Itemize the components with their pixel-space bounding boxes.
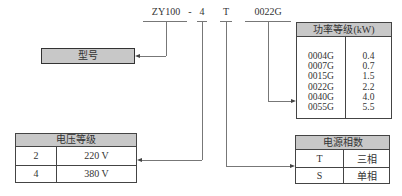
power-code: 0015G xyxy=(297,71,345,81)
power-values-column: 0.4 0.7 1.5 2.2 4.0 5.5 xyxy=(346,37,391,118)
phase-code: S xyxy=(296,167,344,183)
power-code: 0022G xyxy=(297,82,345,92)
connector-series-h xyxy=(140,56,166,57)
code-power: 0022G xyxy=(247,6,289,17)
voltage-table-header: 电压等级 xyxy=(16,134,136,147)
power-value: 0.7 xyxy=(346,61,391,71)
voltage-table: 电压等级 2 220 V 4 380 V xyxy=(15,133,137,183)
power-table: 功率等级(kW) 0004G 0007G 0015G 0022G 0040G 0… xyxy=(296,22,392,119)
code-series-underline xyxy=(143,21,187,22)
arrow-left-icon xyxy=(135,54,140,58)
connector-voltage-v xyxy=(202,21,203,160)
phase-value: 三相 xyxy=(344,150,390,167)
power-value: 2.2 xyxy=(346,82,391,92)
phase-table-body: T 三相 S 单相 xyxy=(296,150,389,183)
connector-series-v xyxy=(166,21,167,56)
power-table-header: 功率等级(kW) xyxy=(297,23,391,37)
phase-value: 单相 xyxy=(344,167,390,183)
code-series: ZY100 xyxy=(146,6,186,17)
table-row: S 单相 xyxy=(296,167,389,183)
phase-table-header: 电源相数 xyxy=(296,136,389,150)
power-codes-column: 0004G 0007G 0015G 0022G 0040G 0055G xyxy=(297,37,345,118)
voltage-code: 4 xyxy=(16,165,57,182)
phase-table: 电源相数 T 三相 S 单相 xyxy=(295,135,390,184)
connector-power-v xyxy=(268,21,269,101)
code-phase: T xyxy=(221,6,231,17)
code-voltage: 4 xyxy=(197,6,207,17)
phase-code: T xyxy=(296,150,344,167)
power-value: 4.0 xyxy=(346,92,391,102)
voltage-value: 220 V xyxy=(57,147,137,165)
power-value: 1.5 xyxy=(346,71,391,81)
voltage-code: 2 xyxy=(16,147,57,165)
table-row: 2 220 V xyxy=(16,147,136,165)
connector-voltage-h xyxy=(141,160,202,161)
power-code: 0040G xyxy=(297,92,345,102)
power-code: 0055G xyxy=(297,102,345,112)
power-code: 0007G xyxy=(297,61,345,71)
table-row: T 三相 xyxy=(296,150,389,167)
connector-phase-h xyxy=(226,166,290,167)
power-code: 0004G xyxy=(297,51,345,61)
voltage-value: 380 V xyxy=(57,165,137,182)
arrow-left-icon xyxy=(137,158,142,162)
power-value: 0.4 xyxy=(346,51,391,61)
code-separator: - xyxy=(186,6,194,17)
model-box-label: 型号 xyxy=(42,49,134,63)
power-value: 5.5 xyxy=(346,102,391,112)
table-row: 4 380 V xyxy=(16,165,136,182)
connector-phase-v xyxy=(226,21,227,166)
connector-power-h xyxy=(268,101,291,102)
voltage-table-body: 2 220 V 4 380 V xyxy=(16,147,136,182)
model-box: 型号 xyxy=(41,48,135,64)
